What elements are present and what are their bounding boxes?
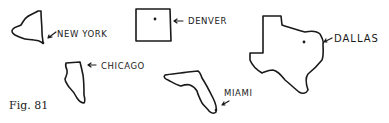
dallas-label: DALLAS	[334, 33, 379, 44]
denver-arrow	[174, 19, 183, 23]
new-york-state-outline	[12, 11, 44, 44]
miami-label: MIAMI	[224, 88, 253, 98]
texas-state-outline	[250, 16, 323, 93]
new-york-arrow	[48, 32, 56, 38]
florida-state-outline	[164, 71, 217, 113]
chicago-label: CHICAGO	[101, 61, 145, 71]
miami-arrow	[222, 101, 229, 105]
chicago-arrow	[88, 63, 96, 67]
denver-label: DENVER	[188, 16, 227, 26]
illinois-state-outline	[65, 62, 85, 103]
dallas-arrow	[324, 38, 332, 42]
figure-caption: Fig. 81	[9, 99, 48, 112]
colorado-state-outline	[136, 9, 171, 41]
new-york-label: NEW YORK	[57, 29, 108, 39]
